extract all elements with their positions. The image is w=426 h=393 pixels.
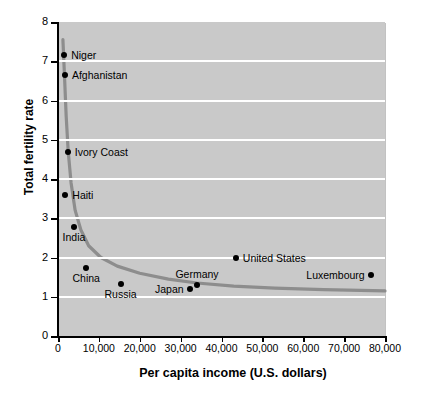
data-point-label: India [63,232,86,243]
data-point-label: Germany [175,269,218,280]
data-point [194,282,200,288]
y-axis-tick-label: 7 [0,55,48,66]
y-axis-tick-label: 8 [0,16,48,27]
y-axis-tick-label: 2 [0,252,48,263]
data-point [65,149,71,155]
y-axis-tick [51,258,58,260]
data-point [187,286,193,292]
gridline [58,60,385,62]
data-point-label: Ivory Coast [75,146,128,157]
data-point-label: Haiti [72,190,93,201]
data-point-label: Japan [155,284,184,295]
y-axis-tick [51,297,58,299]
x-axis-title: Per capita income (U.S. dollars) [0,366,426,380]
data-point [368,272,374,278]
y-axis-tick [51,101,58,103]
y-axis-tick-label: 1 [0,291,48,302]
plot-area: NigerAfghanistanIvory CoastHaitiIndiaChi… [58,22,385,336]
data-point-label: Russia [104,289,136,300]
gridline [58,178,385,180]
y-axis-tick [51,336,58,338]
data-point [62,72,68,78]
data-point-label: Luxembourg [306,270,364,281]
data-point [118,281,124,287]
y-axis-title: Total fertility rate [22,77,36,217]
data-point-label: Afghanistan [72,69,127,80]
data-point [233,255,239,261]
y-axis-tick [51,61,58,63]
y-axis-tick [51,179,58,181]
data-point-label: China [72,273,99,284]
x-axis-tick-label: 80,000 [355,343,415,354]
gridline [58,100,385,102]
y-axis-tick [51,22,58,24]
y-axis-tick-label: 0 [0,330,48,341]
y-axis-tick [51,140,58,142]
data-point-label: Niger [71,50,96,61]
gridline [58,139,385,141]
gridline [58,217,385,219]
gridline [58,257,385,259]
y-axis-tick [51,218,58,220]
data-point-label: United States [243,252,306,263]
fertility-income-scatter-chart: NigerAfghanistanIvory CoastHaitiIndiaChi… [0,0,426,393]
